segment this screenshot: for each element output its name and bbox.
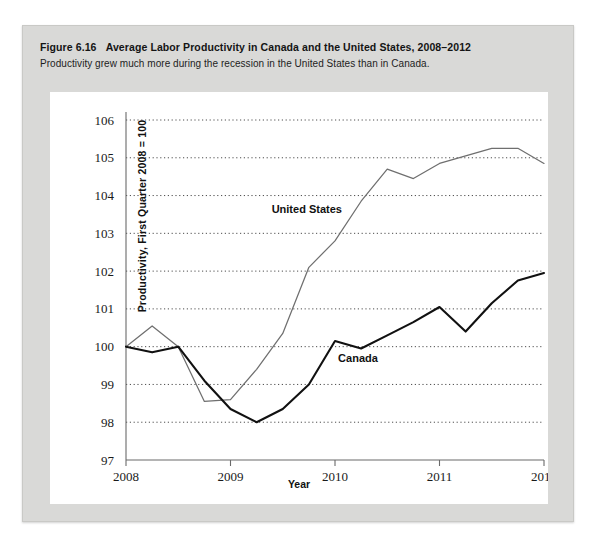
y-axis-tick-label: 98 — [101, 415, 114, 430]
x-axis-tick-label: 2008 — [113, 469, 139, 484]
line-chart: 9798991001011021031041051062008200920102… — [50, 92, 548, 504]
series-line-canada — [126, 273, 544, 422]
figure-number: Figure 6.16 — [40, 41, 97, 53]
series-label-canada: Canada — [338, 352, 379, 364]
y-axis-tick-label: 106 — [95, 113, 115, 128]
x-axis-tick-label: 2011 — [427, 469, 453, 484]
y-axis-tick-label: 102 — [95, 264, 115, 279]
caption-block: Figure 6.16 Average Labor Productivity i… — [40, 40, 555, 71]
y-axis-tick-label: 97 — [101, 453, 115, 468]
y-axis-tick-label: 104 — [95, 188, 115, 203]
figure-title-text: Average Labor Productivity in Canada and… — [106, 41, 471, 53]
y-axis-tick-label: 103 — [95, 226, 115, 241]
series-line-united-states — [126, 148, 544, 401]
x-axis-tick-label: 2012 — [531, 469, 548, 484]
plot-card: Productivity, First Quarter 2008 = 100 Y… — [50, 92, 548, 504]
figure-subtitle: Productivity grew much more during the r… — [40, 57, 555, 71]
y-axis-tick-label: 105 — [95, 150, 115, 165]
figure-panel: Figure 6.16 Average Labor Productivity i… — [22, 25, 574, 522]
series-label-united-states: United States — [272, 203, 342, 215]
x-axis-tick-label: 2010 — [322, 469, 348, 484]
x-axis-tick-label: 2009 — [218, 469, 244, 484]
y-axis-tick-label: 101 — [95, 301, 115, 316]
y-axis-tick-label: 99 — [101, 377, 114, 392]
y-axis-tick-label: 100 — [95, 339, 115, 354]
figure-title: Figure 6.16 Average Labor Productivity i… — [40, 40, 555, 54]
